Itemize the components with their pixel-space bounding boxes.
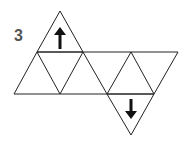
down-arrow-icon xyxy=(125,99,137,119)
up-arrow-icon xyxy=(54,27,66,49)
triangle-net-diagram xyxy=(0,0,187,141)
